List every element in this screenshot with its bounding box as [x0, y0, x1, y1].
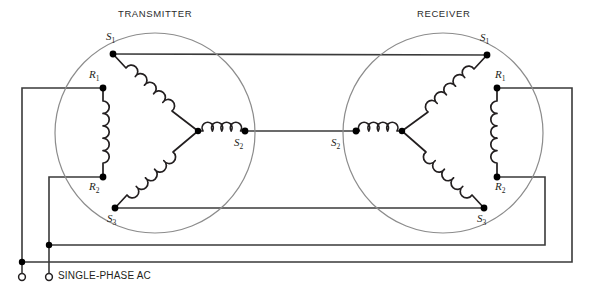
- tx-label-s1-sub: 1: [112, 36, 116, 45]
- tx-label-s2: S2: [234, 136, 243, 151]
- tx-label-r2: R2: [89, 180, 99, 195]
- wire-tx-r1-to-ac: [22, 88, 103, 262]
- ac-terminal-right: [46, 274, 53, 281]
- rx-stator-coil-s1: [402, 55, 487, 131]
- rx-label-r2-sub: 2: [502, 186, 506, 195]
- tx-label-r1: R1: [89, 68, 99, 83]
- rx-label-s2-sub: 2: [337, 142, 341, 151]
- tx-stator-star-node: [195, 128, 201, 134]
- tx-stator-coil-s3: [115, 131, 198, 208]
- ac-terminal-left: [19, 274, 26, 281]
- transmitter-housing-circle: [55, 33, 255, 233]
- tx-label-s3-sub: 3: [113, 218, 117, 227]
- rx-stator-coil-s3: [402, 131, 484, 208]
- rx-label-s3-sub: 3: [483, 218, 487, 227]
- wire-ac-rail-upper: [49, 177, 545, 245]
- rx-label-r1: R1: [495, 68, 505, 83]
- rx-label-s1: S1: [480, 31, 489, 46]
- tx-label-r1-sub: 1: [96, 74, 100, 83]
- rx-rotor-coil: [491, 88, 497, 177]
- tx-label-s3: S3: [107, 212, 116, 227]
- diagram-canvas: [0, 0, 592, 292]
- transmitter-title: TRANSMITTER: [118, 8, 192, 19]
- junction-dot-ac-a: [19, 259, 25, 265]
- tx-stator-coil-s2: [198, 122, 245, 131]
- transmitter-machine: [55, 33, 255, 233]
- rx-label-r2: R2: [495, 180, 505, 195]
- tx-label-r1-base: R: [89, 68, 96, 80]
- rx-label-r1-sub: 1: [502, 74, 506, 83]
- tx-rotor-coil: [103, 88, 109, 177]
- tx-label-r2-sub: 2: [96, 186, 100, 195]
- tx-label-r2-base: R: [89, 180, 96, 192]
- tx-label-s2-sub: 2: [240, 142, 244, 151]
- receiver-machine: [343, 33, 543, 233]
- rx-stator-star-node: [399, 128, 405, 134]
- rx-label-r1-base: R: [495, 68, 502, 80]
- receiver-title: RECEIVER: [417, 8, 470, 19]
- rx-label-s3: S3: [477, 212, 486, 227]
- receiver-housing-circle: [343, 33, 543, 233]
- tx-label-s1: S1: [106, 30, 115, 45]
- synchro-wiring-diagram: TRANSMITTER RECEIVER S1 S2 S3 R1 R2 S1 S…: [0, 0, 592, 292]
- wire-s1-link: [113, 54, 487, 55]
- rx-label-s1-sub: 1: [486, 37, 490, 46]
- tx-node-r2: [100, 174, 107, 181]
- rx-stator-coil-s2: [356, 122, 402, 131]
- tx-node-r1: [100, 85, 107, 92]
- rx-node-s1: [484, 52, 491, 59]
- rx-node-r1: [494, 85, 501, 92]
- rx-node-s3: [481, 205, 488, 212]
- rx-label-s2: S2: [331, 136, 340, 151]
- rx-label-r2-base: R: [495, 180, 502, 192]
- tx-node-s2: [242, 128, 249, 135]
- single-phase-ac-label: SINGLE-PHASE AC: [58, 270, 151, 281]
- tx-node-s1: [110, 51, 117, 58]
- tx-node-s3: [112, 205, 119, 212]
- rx-node-s2: [353, 128, 360, 135]
- tx-stator-coil-s1: [113, 54, 198, 131]
- junction-dot-ac-b: [46, 242, 52, 248]
